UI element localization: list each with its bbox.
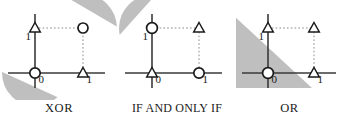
xor-label-origin: 0 <box>39 73 45 85</box>
or-point-0-1 <box>263 23 274 33</box>
iff-point-0-1 <box>147 23 158 34</box>
xor-unit-square-guides <box>35 28 83 73</box>
iff-plot: 0 1 1 <box>118 0 236 100</box>
iff-unit-square-guides <box>152 28 199 73</box>
panel-iff: 0 1 1 IF AND ONLY IF <box>118 0 236 128</box>
or-label-x-one: 1 <box>318 73 324 85</box>
iff-label-x-one: 1 <box>203 73 209 85</box>
caption-xor: XOR <box>0 101 118 116</box>
xor-point-0-1 <box>30 23 41 33</box>
or-plot: 0 1 1 <box>236 0 343 100</box>
iff-label-y-one: 1 <box>143 30 149 42</box>
caption-or: OR <box>236 101 343 116</box>
xor-point-1-1 <box>78 23 88 33</box>
xor-label-y-one: 1 <box>26 30 32 42</box>
iff-label-origin: 0 <box>156 73 162 85</box>
panel-or: 0 1 1 OR <box>236 0 343 128</box>
xor-plot: 0 1 1 <box>0 0 118 100</box>
or-point-1-1 <box>309 23 320 33</box>
or-label-y-one: 1 <box>259 30 265 42</box>
or-label-origin: 0 <box>272 73 278 85</box>
panel-xor: 0 1 1 XOR <box>0 0 118 128</box>
logic-functions-figure: 0 1 1 XOR <box>0 0 343 128</box>
xor-label-x-one: 1 <box>87 73 93 85</box>
caption-iff: IF AND ONLY IF <box>118 101 236 116</box>
iff-point-1-1 <box>194 23 205 33</box>
